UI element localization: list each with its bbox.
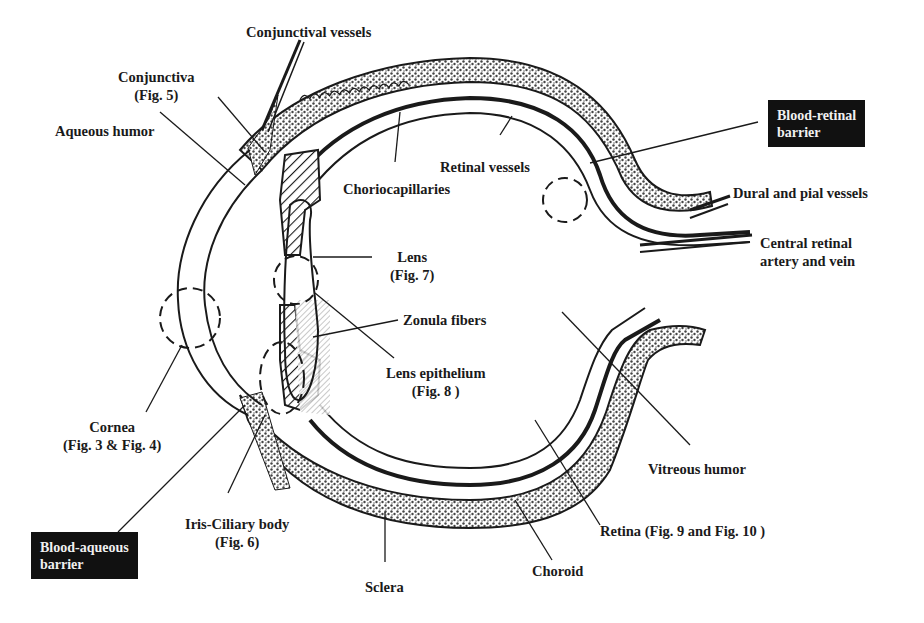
label-retinal-vessels: Retinal vessels	[440, 158, 530, 176]
label-central-retinal: Central retinal artery and vein	[760, 234, 855, 270]
label-conjunctiva-fig: (Fig. 5)	[118, 86, 195, 104]
cornea-outer	[178, 150, 250, 415]
label-retina: Retina (Fig. 9 and Fig. 10 )	[600, 522, 765, 540]
label-choroid: Choroid	[532, 562, 583, 580]
label-cornea: Cornea (Fig. 3 & Fig. 4)	[63, 418, 161, 454]
label-blood-retinal-barrier: Blood-retinal barrier	[768, 100, 865, 147]
label-blood-aqueous-barrier: Blood-aqueous barrier	[31, 532, 138, 579]
label-zonula-fibers: Zonula fibers	[403, 311, 486, 329]
label-dural-pial-vessels: Dural and pial vessels	[733, 184, 868, 202]
box-line-2: barrier	[40, 556, 129, 573]
box-line-2: barrier	[777, 124, 856, 141]
label-conjunctival-vessels: Conjunctival vessels	[246, 23, 371, 41]
central-retinal-line-2: artery and vein	[760, 252, 855, 270]
cornea-inner	[204, 170, 262, 405]
central-retinal-line-1: Central retinal	[760, 234, 855, 252]
lens-name: Lens	[390, 248, 434, 266]
label-conjunctiva: Conjunctiva (Fig. 5)	[118, 68, 195, 104]
cornea-name: Cornea	[63, 418, 161, 436]
label-lens: Lens (Fig. 7)	[390, 248, 434, 284]
box-line-1: Blood-aqueous	[40, 539, 129, 556]
label-lens-epithelium: Lens epithelium (Fig. 8 )	[386, 364, 486, 400]
iris-ciliary-fig: (Fig. 6)	[185, 533, 289, 551]
iris-upper	[280, 150, 320, 255]
box-line-1: Blood-retinal	[777, 107, 856, 124]
label-conjunctiva-name: Conjunctiva	[118, 68, 195, 86]
cornea-fig: (Fig. 3 & Fig. 4)	[63, 436, 161, 454]
iris-ciliary-name: Iris-Ciliary body	[185, 515, 289, 533]
label-choriocapillaries: Choriocapillaries	[343, 180, 450, 198]
label-aqueous-humor: Aqueous humor	[55, 122, 155, 140]
lens-epithelium-fig: (Fig. 8 )	[386, 382, 486, 400]
lens-fig: (Fig. 7)	[390, 266, 434, 284]
label-iris-ciliary: Iris-Ciliary body (Fig. 6)	[185, 515, 289, 551]
lens-epithelium-name: Lens epithelium	[386, 364, 486, 382]
label-sclera: Sclera	[365, 578, 404, 596]
label-vitreous-humor: Vitreous humor	[648, 460, 746, 478]
